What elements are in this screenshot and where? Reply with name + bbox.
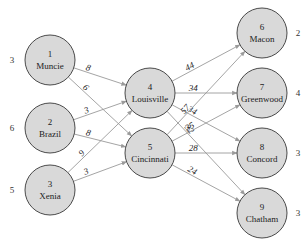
node-circle (237, 188, 287, 238)
edge-label: 28 (189, 143, 199, 153)
edges-layer: 8638934434343257352824 (68, 45, 245, 201)
node-side-value: 3 (296, 208, 301, 218)
node-id: 4 (148, 82, 153, 92)
node-greenwood: 7Greenwood4 (237, 68, 301, 118)
node-name: Greenwood (241, 94, 283, 104)
node-side-value: 2 (296, 28, 301, 38)
node-name: Cincinnati (131, 154, 169, 164)
node-concord: 8Concord3 (237, 128, 301, 178)
node-chatham: 9Chatham3 (237, 188, 301, 238)
edge-arrow (68, 77, 131, 136)
nodes-layer: 1Muncie32Brazil63Xenia54Louisville5Cinci… (10, 8, 301, 238)
node-name: Chatham (246, 214, 279, 224)
edge-arrow (74, 134, 125, 147)
node-side-value: 3 (296, 148, 301, 158)
node-macon: 6Macon2 (237, 8, 300, 58)
node-side-value: 6 (10, 123, 15, 133)
node-id: 1 (48, 49, 53, 59)
node-name: Xenia (39, 191, 61, 201)
node-circle (125, 128, 175, 178)
edge-label: 44 (183, 60, 196, 73)
node-id: 2 (48, 117, 53, 127)
edge-2-4: 3 (74, 101, 127, 119)
node-name: Brazil (39, 129, 61, 139)
edge-3-5: 3 (73, 162, 126, 182)
node-circle (237, 68, 287, 118)
node-circle (25, 165, 75, 215)
edge-label: 35 (182, 120, 196, 134)
edge-label: 8 (85, 127, 92, 138)
node-id: 8 (260, 142, 265, 152)
node-circle (125, 68, 175, 118)
edge-1-5: 6 (68, 77, 131, 136)
node-brazil: 2Brazil6 (10, 103, 75, 153)
node-name: Macon (250, 34, 275, 44)
node-side-value: 4 (296, 88, 301, 98)
node-id: 9 (260, 202, 265, 212)
edge-1-4: 8 (74, 62, 127, 85)
edge-2-5: 8 (74, 127, 125, 147)
node-side-value: 5 (10, 185, 15, 195)
node-name: Concord (247, 154, 278, 164)
edge-4-7: 34 (175, 83, 237, 93)
edge-arrow (74, 101, 127, 119)
edge-label: 3 (82, 104, 91, 115)
edge-5-9: 24 (172, 164, 240, 201)
edge-arrow (172, 45, 240, 81)
node-name: Louisville (132, 94, 169, 104)
node-xenia: 3Xenia5 (10, 165, 75, 215)
node-id: 7 (260, 82, 265, 92)
network-diagram: 8638934434343257352824 1Muncie32Brazil63… (0, 0, 301, 249)
node-muncie: 1Muncie3 (10, 35, 75, 85)
edge-label: 6 (81, 82, 91, 93)
node-side-value: 3 (10, 55, 15, 65)
edge-arrow (74, 68, 127, 85)
node-circle (25, 103, 75, 153)
node-circle (25, 35, 75, 85)
edge-arrow (172, 165, 240, 201)
node-name: Muncie (36, 61, 64, 71)
edge-5-8: 28 (175, 143, 237, 153)
edge-label: 8 (85, 62, 93, 73)
edge-label: 9 (76, 148, 87, 159)
node-cincinnati: 5Cincinnati (125, 128, 175, 178)
node-id: 3 (48, 179, 53, 189)
edge-arrow (73, 162, 126, 182)
node-circle (237, 8, 287, 58)
node-louisville: 4Louisville (125, 68, 175, 118)
edge-label: 34 (188, 83, 199, 93)
edge-4-6: 44 (172, 45, 240, 81)
node-id: 5 (148, 142, 153, 152)
node-id: 6 (260, 22, 265, 32)
node-circle (237, 128, 287, 178)
edge-label: 3 (81, 166, 90, 177)
edge-label: 24 (186, 164, 199, 177)
